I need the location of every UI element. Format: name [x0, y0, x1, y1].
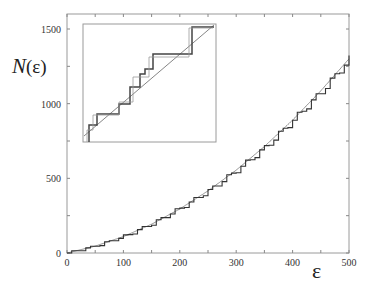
y-tick-label: 1000 — [41, 99, 61, 110]
x-tick-label: 400 — [285, 257, 300, 268]
y-axis-title-arg: (ε) — [26, 56, 47, 78]
x-axis-title: ε — [312, 258, 321, 283]
x-tick-label: 200 — [172, 257, 187, 268]
inset-plot — [83, 24, 216, 142]
chart: 0100200300400500 050010001500 ε N(ε) — [0, 0, 370, 290]
y-tick-label: 0 — [56, 248, 61, 259]
y-tick-label: 1500 — [41, 24, 61, 35]
inset-border — [83, 24, 216, 142]
y-tick-label: 500 — [46, 173, 61, 184]
x-tick-label: 0 — [65, 257, 70, 268]
x-tick-label: 300 — [229, 257, 244, 268]
x-tick-label: 100 — [116, 257, 131, 268]
x-tick-label: 500 — [342, 257, 357, 268]
y-axis-title: N(ε) — [11, 54, 47, 78]
